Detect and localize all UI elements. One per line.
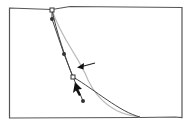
frame [10, 7, 183, 119]
anchor-top[interactable] [50, 8, 54, 12]
edited-curve [52, 10, 140, 117]
handle-dot-lower[interactable] [81, 99, 85, 103]
diagram-svg [0, 0, 191, 130]
handle-dot-upper[interactable] [62, 52, 66, 56]
anchor-mid[interactable] [71, 75, 75, 79]
cursor-arrow-icon [73, 82, 82, 96]
bezier-diagram [0, 0, 191, 130]
original-curve [52, 10, 140, 117]
handle-dot-top[interactable] [50, 17, 54, 21]
